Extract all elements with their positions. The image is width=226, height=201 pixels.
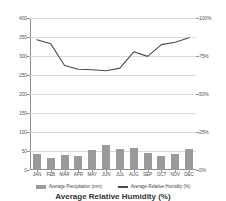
x-axis-label: MAR [58, 172, 72, 178]
x-axis-tick-mark [148, 170, 149, 172]
legend-label-precipitation: Average Precipitation (mm) [49, 184, 102, 190]
x-axis-tick-mark [120, 170, 121, 172]
right-axis-tick-label: 100% [199, 16, 225, 21]
x-axis-tick-mark [65, 170, 66, 172]
x-axis-labels: JANFEBMARAPRMAYJUNJULAUGSEPOCTNOVDEC [30, 172, 196, 180]
line-series-humidity [30, 18, 196, 170]
chart-container: 050100150200250300350400 0%25%50%75%100%… [0, 0, 226, 201]
x-axis-tick-mark [92, 170, 93, 172]
right-axis-tick-mark [196, 18, 199, 19]
left-axis-tick-label: 400 [1, 16, 27, 21]
left-axis-tick-mark [27, 170, 30, 171]
left-axis-tick-label: 0 [1, 168, 27, 173]
x-axis-tick-mark [134, 170, 135, 172]
right-axis-tick-label: 75% [199, 54, 225, 59]
humidity-line-path [30, 18, 196, 170]
right-axis-tick-label: 25% [199, 130, 225, 135]
left-axis-tick-label: 250 [1, 73, 27, 78]
left-axis-tick-label: 200 [1, 92, 27, 97]
bar-swatch-icon [36, 185, 46, 189]
x-axis-label: JUL [113, 172, 127, 178]
right-axis-tick-mark [196, 56, 199, 57]
x-axis-label: APR [72, 172, 86, 178]
legend-item-humidity[interactable]: Average Relative Humidity (%) [118, 184, 191, 190]
legend-label-humidity: Average Relative Humidity (%) [131, 184, 191, 190]
right-axis-tick-label: 0% [199, 168, 225, 173]
x-axis-label: JAN [30, 172, 44, 178]
left-axis-tick-label: 300 [1, 54, 27, 59]
right-axis-tick-mark [196, 170, 199, 171]
x-axis-tick-mark [189, 170, 190, 172]
x-axis-label: OCT [155, 172, 169, 178]
legend-item-precipitation[interactable]: Average Precipitation (mm) [36, 184, 102, 190]
left-axis-tick-label: 50 [1, 149, 27, 154]
x-axis-label: AUG [127, 172, 141, 178]
right-axis-tick-label: 50% [199, 92, 225, 97]
x-axis-tick-mark [161, 170, 162, 172]
right-axis-tick-mark [196, 132, 199, 133]
chart-legend: Average Precipitation (mm) Average Relat… [0, 182, 226, 191]
x-axis-label: MAY [85, 172, 99, 178]
x-axis-label: DEC [182, 172, 196, 178]
x-axis-tick-mark [37, 170, 38, 172]
left-axis-tick-label: 100 [1, 130, 27, 135]
chart-title: Average Relative Humidity (%) [0, 192, 226, 201]
x-axis-tick-mark [106, 170, 107, 172]
left-axis-tick-label: 350 [1, 35, 27, 40]
x-axis-label: NOV [168, 172, 182, 178]
line-swatch-icon [118, 186, 128, 188]
x-axis-tick-mark [51, 170, 52, 172]
x-axis-tick-mark [175, 170, 176, 172]
x-axis-label: JUN [99, 172, 113, 178]
right-axis-tick-mark [196, 94, 199, 95]
x-axis-label: FEB [44, 172, 58, 178]
x-axis-label: SEP [141, 172, 155, 178]
left-axis-tick-label: 150 [1, 111, 27, 116]
x-axis-tick-mark [78, 170, 79, 172]
